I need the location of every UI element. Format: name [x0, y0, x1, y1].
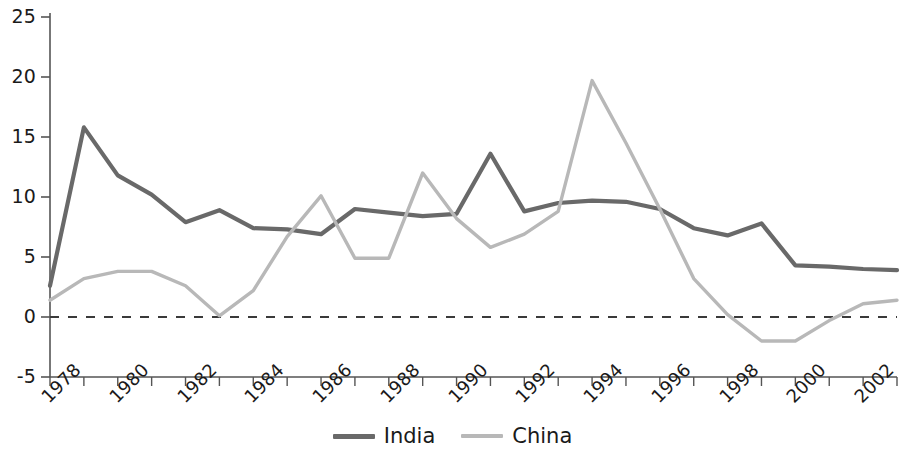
chart-container: 2520151050-5 197819801982198419861988199… [0, 0, 905, 453]
y-axis-tick-label: 0 [2, 305, 36, 327]
y-axis-tick-label: 5 [2, 245, 36, 267]
chart-legend: India China [0, 424, 905, 448]
legend-item-china[interactable]: China [461, 424, 572, 448]
y-axis-tick-label: 25 [2, 5, 36, 27]
legend-item-india[interactable]: India [333, 424, 436, 448]
legend-swatch-india [333, 434, 375, 439]
data-series-group [50, 81, 897, 341]
y-axis-tick-label: -5 [2, 365, 36, 387]
y-axis-ticks [41, 17, 50, 377]
series-line-india [50, 127, 897, 285]
y-axis-tick-label: 10 [2, 185, 36, 207]
y-axis-tick-label: 15 [2, 125, 36, 147]
legend-swatch-china [461, 434, 503, 438]
y-axis-tick-label: 20 [2, 65, 36, 87]
series-line-china [50, 81, 897, 341]
legend-label-china: China [512, 424, 572, 448]
axis-lines [50, 13, 897, 377]
legend-label-india: India [384, 424, 436, 448]
